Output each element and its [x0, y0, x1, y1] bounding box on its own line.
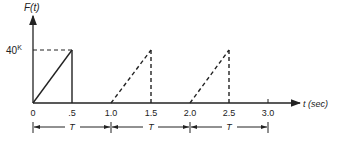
pulse-3 [190, 50, 229, 103]
tick-label: 0 [30, 108, 35, 118]
period-label-3: T [226, 122, 233, 132]
tick-label: .5 [68, 108, 76, 118]
tick-label: 1.0 [105, 108, 118, 118]
y-axis-label: F(t) [24, 2, 40, 13]
diagram-canvas: F(t) t (sec) 40K 0 .5 1 [0, 0, 349, 142]
period-label-1: T [69, 122, 76, 132]
sawtooth-force-diagram: F(t) t (sec) 40K 0 .5 1 [0, 0, 349, 142]
period-label-2: T [148, 122, 155, 132]
tick-label: 2.5 [223, 108, 236, 118]
tick-label: 2.0 [184, 108, 197, 118]
pulse-2 [111, 50, 151, 103]
pulse-1 [33, 50, 72, 103]
level-label: 40K [6, 44, 22, 56]
x-tick-labels: 0 .5 1.0 1.5 2.0 2.5 3.0 [30, 108, 274, 118]
tick-label: 3.0 [262, 108, 275, 118]
x-axis-label: t (sec) [303, 99, 328, 109]
tick-label: 1.5 [145, 108, 158, 118]
